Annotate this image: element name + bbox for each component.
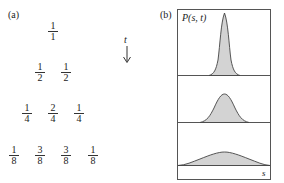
curve-early — [209, 13, 240, 76]
x-axis-label: s — [262, 168, 266, 178]
plot-title: P(s, t) — [182, 12, 206, 23]
distribution-plot — [0, 0, 284, 183]
curve-middle — [200, 94, 249, 123]
curve-late — [178, 152, 270, 166]
